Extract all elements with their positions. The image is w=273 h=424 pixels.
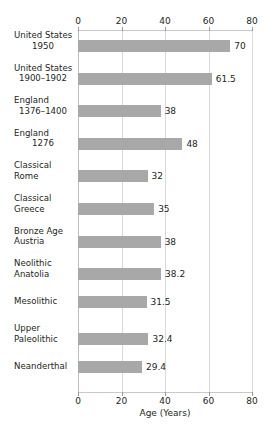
- x-tick-label-bottom-20: 20: [107, 396, 137, 407]
- category-label-line2: Austria: [14, 236, 76, 247]
- category-label-line2: Paleolithic: [14, 334, 76, 345]
- bar-value-label: 35: [158, 203, 169, 215]
- bar-value-label: 31.5: [151, 296, 171, 308]
- x-tick-mark-top-60: [209, 27, 210, 31]
- x-tick-label-bottom-60: 60: [194, 396, 224, 407]
- x-tick-mark-top-20: [122, 27, 123, 31]
- bar-row: Bronze AgeAustria38: [0, 230, 273, 262]
- bar-row: NeolithicAnatolia38.2: [0, 262, 273, 294]
- bar: [78, 40, 230, 52]
- x-tick-mark-bottom-40: [165, 392, 166, 396]
- category-label: United States1900–1902: [14, 63, 76, 84]
- category-label-line2: 1950: [14, 41, 76, 52]
- bar-value-label: 38: [165, 236, 176, 248]
- category-label-line1: England: [14, 128, 76, 139]
- x-tick-label-bottom-40: 40: [150, 396, 180, 407]
- bar-value-label: 29.4: [146, 361, 166, 373]
- bar: [78, 105, 161, 117]
- bar: [78, 170, 148, 182]
- bar-row: ClassicalGreece35: [0, 197, 273, 229]
- bar-row: Neanderthal29.4: [0, 360, 273, 392]
- bar-value-label: 32.4: [152, 333, 172, 345]
- x-tick-label-top-20: 20: [107, 16, 137, 27]
- x-tick-mark-bottom-0: [78, 392, 79, 396]
- category-label-line2: Rome: [14, 171, 76, 182]
- bar-row: United States1900–190261.5: [0, 67, 273, 99]
- bar-row: United States195070: [0, 34, 273, 66]
- category-label-line1: Neolithic: [14, 258, 76, 269]
- bar-value-label: 61.5: [216, 73, 236, 85]
- category-label: Bronze AgeAustria: [14, 226, 76, 247]
- bar-row: England127648: [0, 132, 273, 164]
- bar: [78, 268, 161, 280]
- category-label: Neanderthal: [14, 361, 76, 372]
- category-label: Mesolithic: [14, 296, 76, 307]
- bar: [78, 296, 147, 308]
- bar-row: UpperPaleolithic32.4: [0, 327, 273, 359]
- category-label-line2: 1900–1902: [14, 73, 76, 84]
- bar-value-label: 32: [152, 170, 163, 182]
- bar: [78, 333, 148, 345]
- category-label: England1276: [14, 128, 76, 149]
- x-tick-label-top-40: 40: [150, 16, 180, 27]
- bar-row: England1376–140038: [0, 99, 273, 131]
- category-label: NeolithicAnatolia: [14, 258, 76, 279]
- bar-value-label: 38: [165, 105, 176, 117]
- bar: [78, 73, 212, 85]
- category-label-line1: Bronze Age: [14, 226, 76, 237]
- bar-row: Mesolithic31.5: [0, 295, 273, 327]
- x-tick-mark-top-80: [252, 27, 253, 31]
- x-tick-label-bottom-80: 80: [237, 396, 267, 407]
- bar: [78, 236, 161, 248]
- x-tick-mark-top-0: [78, 27, 79, 31]
- category-label-line2: Greece: [14, 204, 76, 215]
- category-label: ClassicalGreece: [14, 193, 76, 214]
- horizontal-bar-chart: 020406080 020406080 United States195070U…: [0, 0, 273, 424]
- x-tick-mark-bottom-80: [252, 392, 253, 396]
- category-label-line2: 1376–1400: [14, 106, 76, 117]
- x-tick-label-top-60: 60: [194, 16, 224, 27]
- category-label: England1376–1400: [14, 95, 76, 116]
- x-tick-mark-bottom-60: [209, 392, 210, 396]
- category-label-line2: Anatolia: [14, 269, 76, 280]
- x-tick-label-top-80: 80: [237, 16, 267, 27]
- bar-value-label: 70: [234, 40, 245, 52]
- bar: [78, 203, 154, 215]
- bar: [78, 138, 182, 150]
- category-label: UpperPaleolithic: [14, 323, 76, 344]
- category-label-line1: Classical: [14, 160, 76, 171]
- x-tick-mark-top-40: [165, 27, 166, 31]
- category-label-line2: 1276: [14, 138, 76, 149]
- bar: [78, 361, 142, 373]
- category-label: ClassicalRome: [14, 160, 76, 181]
- category-label-line1: United States: [14, 30, 76, 41]
- bar-value-label: 48: [186, 138, 197, 150]
- category-label: United States1950: [14, 30, 76, 51]
- x-tick-label-top-0: 0: [63, 16, 93, 27]
- bar-row: ClassicalRome32: [0, 164, 273, 196]
- category-label-line1: Classical: [14, 193, 76, 204]
- x-tick-mark-bottom-20: [122, 392, 123, 396]
- category-label-line1: United States: [14, 63, 76, 74]
- category-label-line1: Neanderthal: [14, 361, 76, 372]
- x-axis-title: Age (Years): [78, 408, 252, 418]
- x-tick-label-bottom-0: 0: [63, 396, 93, 407]
- category-label-line1: Mesolithic: [14, 296, 76, 307]
- bar-value-label: 38.2: [165, 268, 185, 280]
- category-label-line1: Upper: [14, 323, 76, 334]
- category-label-line1: England: [14, 95, 76, 106]
